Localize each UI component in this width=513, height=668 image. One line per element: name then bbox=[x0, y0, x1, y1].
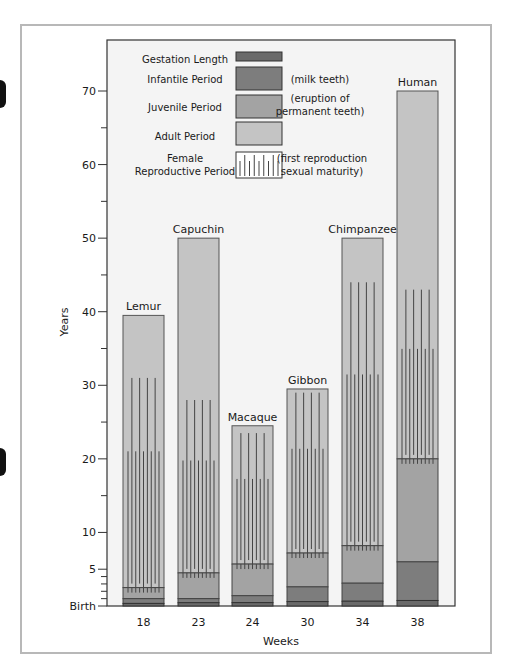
segment-gestation bbox=[232, 603, 273, 606]
legend-note-juvenile-2: permanent teeth) bbox=[276, 106, 365, 117]
segment-juvenile bbox=[287, 553, 328, 587]
segment-infantile bbox=[123, 599, 164, 604]
species-label: Human bbox=[398, 76, 438, 89]
segment-gestation bbox=[123, 603, 164, 606]
species-label: Chimpanzee bbox=[328, 223, 397, 236]
y-tick-label: 60 bbox=[82, 159, 96, 172]
y-tick-label: 40 bbox=[82, 306, 96, 319]
x-tick-label: 38 bbox=[411, 616, 425, 629]
x-tick-label: 34 bbox=[356, 616, 370, 629]
legend-note-infantile: (milk teeth) bbox=[291, 74, 350, 85]
x-tick-label: 23 bbox=[192, 616, 206, 629]
segment-gestation bbox=[397, 600, 438, 606]
legend-label-adult: Adult Period bbox=[155, 131, 215, 142]
x-tick-label: 18 bbox=[137, 616, 151, 629]
legend-label-gestation: Gestation Length bbox=[142, 54, 228, 65]
legend-note-reproductive-1: (first reproduction bbox=[277, 153, 367, 164]
segment-infantile bbox=[342, 583, 383, 601]
x-tick-label: 24 bbox=[246, 616, 260, 629]
bar-chimpanzee bbox=[342, 238, 383, 606]
legend-label-infantile: Infantile Period bbox=[147, 74, 222, 85]
segment-juvenile bbox=[342, 546, 383, 584]
y-axis-label: Years bbox=[58, 307, 71, 337]
bar-lemur bbox=[123, 315, 164, 606]
legend-swatch-adult bbox=[236, 122, 282, 145]
species-label: Gibbon bbox=[288, 374, 327, 387]
chart: Birth510203040506070YearsLemur18Capuchin… bbox=[0, 0, 513, 668]
legend-label-reproductive-2: Reproductive Period bbox=[135, 166, 235, 177]
segment-infantile bbox=[397, 562, 438, 601]
segment-infantile bbox=[287, 587, 328, 602]
y-tick-label: 5 bbox=[89, 563, 96, 576]
segment-juvenile bbox=[397, 459, 438, 562]
species-label: Macaque bbox=[228, 411, 278, 424]
segment-infantile bbox=[232, 596, 273, 603]
legend-note-juvenile-1: (eruption of bbox=[291, 93, 350, 104]
bar-gibbon bbox=[287, 389, 328, 606]
y-tick-label: 50 bbox=[82, 232, 96, 245]
y-tick-label: 10 bbox=[82, 526, 96, 539]
bar-human bbox=[397, 91, 438, 606]
species-label: Capuchin bbox=[173, 223, 224, 236]
x-axis-label: Weeks bbox=[263, 635, 299, 648]
segment-gestation bbox=[178, 603, 219, 606]
y-tick-label: 70 bbox=[82, 85, 96, 98]
legend-swatch-gestation bbox=[236, 52, 282, 61]
segment-infantile bbox=[178, 599, 219, 603]
y-tick-label: 20 bbox=[82, 453, 96, 466]
segment-gestation bbox=[287, 602, 328, 606]
y-tick-label: Birth bbox=[70, 600, 96, 613]
bar-macaque bbox=[232, 426, 273, 606]
legend-label-juvenile: Juvenile Period bbox=[147, 102, 222, 113]
species-label: Lemur bbox=[126, 300, 161, 313]
bar-capuchin bbox=[178, 238, 219, 606]
legend-note-reproductive-2: sexual maturity) bbox=[281, 166, 363, 177]
y-tick-label: 30 bbox=[82, 379, 96, 392]
legend-swatch-infantile bbox=[236, 67, 282, 90]
segment-gestation bbox=[342, 601, 383, 606]
x-tick-label: 30 bbox=[301, 616, 315, 629]
legend-label-reproductive-1: Female bbox=[167, 153, 203, 164]
